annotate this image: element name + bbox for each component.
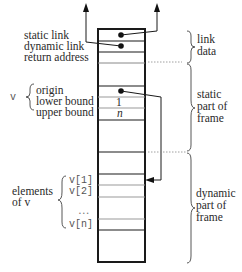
static-part-label-1: static xyxy=(197,89,221,100)
v-label: v xyxy=(10,92,16,103)
link-data-brace xyxy=(187,31,195,63)
dynamic-part-label-1: dynamic xyxy=(196,188,236,199)
static-part-label-2: part of xyxy=(197,101,227,112)
link-data-label-2: data xyxy=(197,46,216,57)
elements-label-line2: of v xyxy=(12,197,30,208)
link-data-label-1: link xyxy=(197,34,215,45)
origin-pointer xyxy=(121,91,161,180)
dynamic-part-brace xyxy=(187,153,195,263)
ellipsis-label: … xyxy=(78,205,90,216)
v1-label: v[1] xyxy=(69,175,93,186)
upper-bound-value: n xyxy=(117,108,123,119)
static-part-label-3: frame xyxy=(197,113,224,124)
arrow-up-icon xyxy=(154,3,160,12)
dynamic-part-label-2: part of xyxy=(196,200,226,211)
static-link-pointer xyxy=(121,10,157,35)
vn-label: v[n] xyxy=(69,219,93,230)
arrow-left-icon xyxy=(145,177,154,183)
elements-brace xyxy=(58,176,66,228)
return-address-label: return address xyxy=(24,52,89,63)
arrow-up-icon xyxy=(83,3,89,12)
static-part-brace xyxy=(187,64,195,151)
upper-bound-label: upper bound xyxy=(36,107,94,118)
dynamic-part-label-3: frame xyxy=(196,212,223,223)
v-brace xyxy=(26,84,34,110)
frame-box xyxy=(98,29,145,262)
v2-label: v[2] xyxy=(69,186,93,197)
